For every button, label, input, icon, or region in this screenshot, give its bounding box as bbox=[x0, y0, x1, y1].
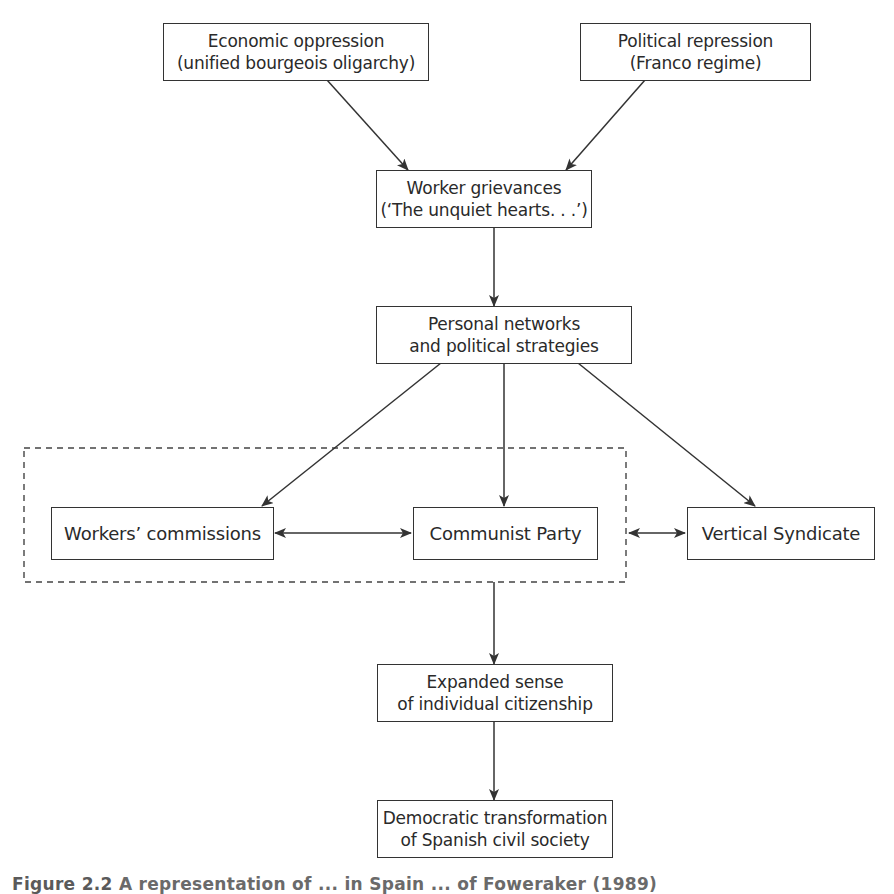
node-political-repression: Political repression (Franco regime) bbox=[580, 23, 811, 81]
arrow-economic-to-grievances bbox=[327, 80, 408, 170]
node-label: Workers’ commissions bbox=[64, 523, 261, 545]
node-line: (‘The unquiet hearts. . .’) bbox=[380, 199, 587, 221]
node-personal-networks: Personal networks and political strategi… bbox=[376, 306, 632, 364]
node-line: (Franco regime) bbox=[630, 52, 762, 74]
arrow-networks-to-commissions bbox=[262, 363, 441, 506]
node-label: Communist Party bbox=[430, 523, 582, 545]
node-economic-oppression: Economic oppression (unified bourgeois o… bbox=[163, 23, 429, 81]
node-expanded-citizenship: Expanded sense of individual citizenship bbox=[377, 664, 613, 722]
node-line: Personal networks bbox=[428, 313, 580, 335]
node-line: (unified bourgeois oligarchy) bbox=[177, 52, 415, 74]
figure-label: Figure 2.2 bbox=[12, 874, 113, 894]
node-label: Vertical Syndicate bbox=[702, 523, 860, 545]
node-worker-grievances: Worker grievances (‘The unquiet hearts. … bbox=[376, 170, 592, 228]
arrow-political-to-grievances bbox=[566, 80, 645, 170]
node-line: Economic oppression bbox=[208, 30, 385, 52]
node-democratic-transformation: Democratic transformation of Spanish civ… bbox=[377, 800, 613, 858]
node-vertical-syndicate: Vertical Syndicate bbox=[687, 507, 875, 560]
node-communist-party: Communist Party bbox=[413, 507, 598, 560]
figure-caption: Figure 2.2 A representation of ... in Sp… bbox=[12, 874, 657, 894]
node-line: Expanded sense bbox=[427, 671, 564, 693]
node-workers-commissions: Workers’ commissions bbox=[51, 507, 274, 560]
figure-caption-text: A representation of ... in Spain ... of … bbox=[119, 874, 657, 894]
node-line: Democratic transformation bbox=[383, 807, 608, 829]
node-line: of individual citizenship bbox=[397, 693, 592, 715]
node-line: of Spanish civil society bbox=[400, 829, 589, 851]
arrow-networks-to-syndicate bbox=[578, 363, 755, 506]
node-line: Political repression bbox=[618, 30, 773, 52]
node-line: and political strategies bbox=[409, 335, 598, 357]
node-line: Worker grievances bbox=[407, 177, 562, 199]
